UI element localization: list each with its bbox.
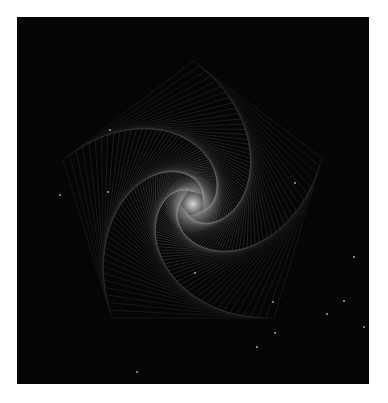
pentagon-spiral-graphic — [17, 17, 369, 384]
page — [0, 0, 388, 403]
spiral-lines — [63, 61, 322, 318]
artwork-canvas — [17, 17, 369, 384]
